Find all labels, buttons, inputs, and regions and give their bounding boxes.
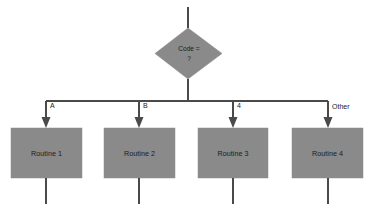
branch-label-3: 4 (237, 102, 241, 109)
decision-diamond[interactable] (155, 28, 222, 79)
branch-label-4: Other (332, 103, 350, 110)
routine-label-3: Routine 3 (218, 149, 249, 158)
branch-arrowhead-4 (324, 117, 333, 128)
routine-label-1: Routine 1 (31, 149, 62, 158)
branch-label-1: A (50, 102, 55, 109)
branch-arrowhead-2 (135, 117, 144, 128)
flowchart-diagram: Code = ? A B 4 Other Routine 1 Routine 2 (0, 0, 376, 210)
routine-label-4: Routine 4 (312, 149, 343, 158)
branch-label-2: B (143, 102, 148, 109)
flowchart-canvas: Code = ? A B 4 Other Routine 1 Routine 2 (0, 0, 376, 210)
branch-arrowhead-1 (42, 117, 51, 128)
branch-arrowhead-3 (229, 117, 238, 128)
decision-label-line2: ? (187, 55, 191, 62)
decision-label-line1: Code = (178, 45, 200, 52)
routine-label-2: Routine 2 (124, 149, 155, 158)
